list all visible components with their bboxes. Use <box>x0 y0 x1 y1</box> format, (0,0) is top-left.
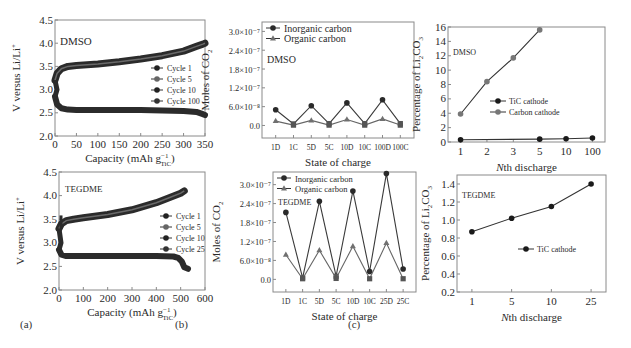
x-tick-label: 25D <box>380 297 394 306</box>
circle-marker <box>154 65 160 71</box>
x-axis-label: State of charge <box>305 156 371 168</box>
solvent-annotation: TEGDME <box>462 191 495 200</box>
legend-label: Cycle 5 <box>167 75 192 84</box>
y-tick-label: 1.2×10⁻⁷ <box>229 83 260 93</box>
y-tick-label: 0.4 <box>441 268 455 280</box>
y-tick-label: 0 <box>441 136 447 148</box>
triangle-marker <box>344 116 350 121</box>
chart-b_top: 0.06.0×10⁻⁸1.2×10⁻⁷1.8×10⁻⁷2.4×10⁻⁷3.0×1… <box>199 22 414 168</box>
y-tick-label: 1.0 <box>441 214 455 226</box>
y-tick-label: 3.0×10⁻⁷ <box>240 180 271 190</box>
solvent-annotation: TEGDME <box>278 198 311 207</box>
x-tick-label: 1C <box>298 297 307 306</box>
circle-marker <box>537 136 543 142</box>
x-tick-label: 200 <box>99 292 116 304</box>
y-axis-label: V versus Li/Li+ <box>14 197 26 265</box>
curve-join <box>55 80 57 96</box>
x-tick-label: 10 <box>561 145 573 157</box>
x-tick-label: 1 <box>469 295 475 307</box>
x-axis-label: Nth discharge <box>500 311 562 323</box>
x-tick-label: 25C <box>397 297 410 306</box>
y-tick-label: 12 <box>435 49 446 61</box>
y-axis-label: Percentage of Li2CO3 <box>410 37 425 132</box>
circle-marker <box>511 55 517 61</box>
x-tick-label: 300 <box>175 138 192 150</box>
y-tick-label: 8 <box>441 78 447 90</box>
x-tick-label: 600 <box>197 292 214 304</box>
y-tick-label: 0.6 <box>441 250 455 262</box>
square-marker <box>334 276 339 281</box>
circle-marker <box>509 215 515 221</box>
x-tick-label: 1 <box>458 145 464 157</box>
triangle-marker <box>283 252 289 257</box>
x-tick-label: 50 <box>71 138 83 150</box>
circle-marker <box>495 109 501 115</box>
x-tick-label: 100 <box>584 145 601 157</box>
x-tick-label: 10D <box>346 297 360 306</box>
x-tick-label: 10C <box>358 143 371 152</box>
circle-marker <box>484 79 490 85</box>
x-tick-label: 150 <box>111 138 128 150</box>
y-tick-label: 3.0 <box>39 83 53 95</box>
x-tick-label: 400 <box>148 292 165 304</box>
y-tick-label: 14 <box>435 35 447 47</box>
chart-c_top: 0246810121416123510100TiC cathodeCarbon … <box>410 21 605 174</box>
x-tick-label: 1C <box>289 143 298 152</box>
y-tick-label: 0.0 <box>260 275 271 285</box>
solvent-annotation: DMSO <box>267 54 296 65</box>
triangle-marker <box>270 35 276 40</box>
x-tick-label: 5C <box>332 297 341 306</box>
circle-marker <box>495 98 501 104</box>
x-tick-label: 350 <box>197 138 214 150</box>
square-marker <box>401 276 406 281</box>
x-tick-label: 100 <box>90 138 107 150</box>
square-marker <box>291 123 296 128</box>
circle-marker <box>163 224 169 230</box>
x-axis-label: Capacity (mAh g−1TiC) <box>85 152 175 168</box>
legend-label: Cycle 10 <box>176 234 205 243</box>
x-tick-label: 1D <box>281 297 291 306</box>
x-tick-label: 2 <box>484 145 490 157</box>
circle-marker <box>283 210 289 216</box>
square-marker <box>398 123 403 128</box>
circle-marker <box>590 135 596 141</box>
legend-label: Carbon cathode <box>509 108 560 117</box>
y-axis-label: Moles of CO2 <box>210 201 225 262</box>
legend-label: Cycle 5 <box>176 223 201 232</box>
y-tick-label: 4.0 <box>39 37 53 49</box>
y-tick-label: 2 <box>441 121 447 133</box>
legend-label: Organic carbon <box>284 33 346 44</box>
figure-canvas: 2.02.53.03.54.04.5050100150200250300350D… <box>0 0 631 348</box>
y-tick-label: 6.0×10⁻⁸ <box>229 102 260 112</box>
circle-marker <box>588 181 594 187</box>
y-tick-label: 0.2 <box>441 286 455 298</box>
y-axis-label: Moles of CO2 <box>199 49 214 110</box>
circle-marker <box>380 97 386 103</box>
y-tick-label: 2.5 <box>43 260 57 272</box>
legend-label: Organic carbon <box>295 184 348 194</box>
y-tick-label: 0.8 <box>441 232 455 244</box>
y-tick-label: 4 <box>441 107 447 119</box>
curve-join <box>59 229 61 250</box>
triangle-marker <box>273 118 279 123</box>
circle-marker <box>163 235 169 241</box>
x-tick-label: 0 <box>52 138 58 150</box>
circle-marker <box>350 188 356 194</box>
series-line <box>461 138 593 140</box>
y-tick-label: 2.4×10⁻⁷ <box>240 199 271 209</box>
x-tick-label: 500 <box>172 292 189 304</box>
circle-marker <box>317 199 323 205</box>
x-axis-label: State of charge <box>312 310 378 322</box>
solvent-annotation: DMSO <box>60 35 92 47</box>
circle-marker <box>154 76 160 82</box>
square-marker <box>326 123 331 128</box>
x-axis-label: Capacity (mAh g−1TiC) <box>87 306 177 322</box>
x-tick-label: 10 <box>546 295 558 307</box>
chart-a_bot: 2.02.53.03.54.04.50100200300400500600TEG… <box>14 166 214 323</box>
chart-a_top: 2.02.53.03.54.04.5050100150200250300350D… <box>10 14 214 169</box>
legend-label: Cycle 1 <box>167 64 192 73</box>
x-tick-label: 10D <box>340 143 354 152</box>
y-tick-label: 1.8×10⁻⁷ <box>229 65 260 75</box>
y-tick-label: 1.8×10⁻⁷ <box>240 218 271 228</box>
x-tick-label: 3 <box>511 145 517 157</box>
